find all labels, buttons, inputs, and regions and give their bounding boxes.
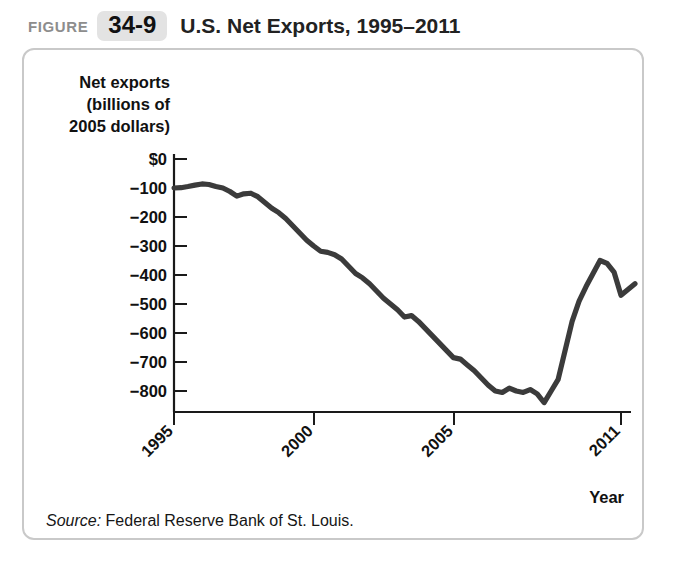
figure-kicker-label: FIGURE: [28, 18, 88, 35]
figure-header: FIGURE 34-9 U.S. Net Exports, 1995–2011: [28, 9, 461, 43]
source-text: Federal Reserve Bank of St. Louis.: [106, 512, 354, 529]
y-tick-label-600: −600: [130, 324, 167, 342]
x-axis-title: Year: [589, 488, 624, 507]
y-axis-title-line-2: (billions of: [87, 95, 171, 113]
y-tick-label-200: −200: [130, 208, 167, 226]
figure-panel: Net exports (billions of 2005 dollars) $: [22, 48, 644, 540]
x-tick-label-1995: 1995: [137, 421, 176, 460]
y-tick-label-0: $0: [149, 150, 167, 168]
y-axis-title-line-3: 2005 dollars): [69, 117, 170, 135]
source-note: Source: Federal Reserve Bank of St. Loui…: [46, 512, 354, 530]
y-tick-label-100: −100: [130, 179, 167, 197]
figure-number-badge: 34-9: [97, 11, 167, 40]
y-axis-tick-labels: $0 −100 −200 −300 −400 −500 −600 −700 −8…: [130, 150, 167, 400]
x-axis-ticks: [174, 412, 621, 425]
x-tick-label-2000: 2000: [277, 421, 316, 460]
data-series-net-exports: [174, 184, 635, 403]
figure-title: U.S. Net Exports, 1995–2011: [180, 14, 460, 38]
x-axis-tick-labels: 1995 2000 2005 2011: [137, 421, 623, 460]
y-tick-label-400: −400: [130, 266, 167, 284]
y-axis-ticks: [174, 159, 187, 391]
chart-plot-area: Net exports (billions of 2005 dollars) $: [24, 50, 646, 490]
source-label: Source:: [46, 512, 101, 529]
net-exports-line-chart: Net exports (billions of 2005 dollars) $: [24, 50, 646, 490]
x-tick-label-2005: 2005: [417, 421, 456, 460]
x-tick-label-2011: 2011: [585, 421, 623, 459]
y-axis-title-line-1: Net exports: [79, 73, 170, 91]
y-tick-label-700: −700: [130, 353, 167, 371]
y-tick-label-300: −300: [130, 237, 167, 255]
y-tick-label-500: −500: [130, 295, 167, 313]
y-tick-label-800: −800: [130, 382, 167, 400]
